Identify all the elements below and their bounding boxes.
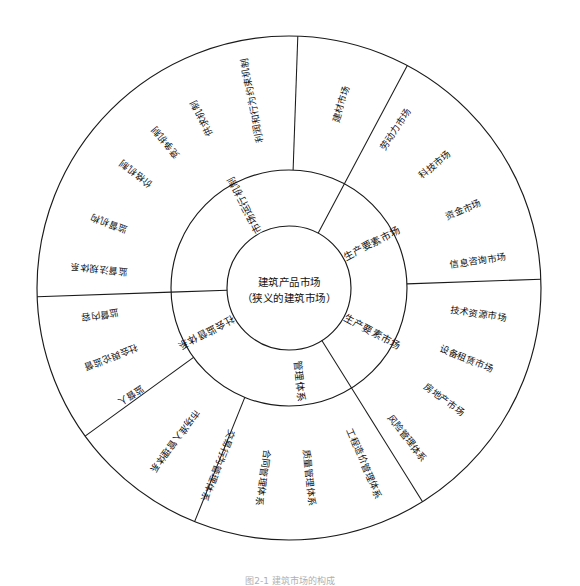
middle-circle bbox=[171, 170, 407, 406]
outer-circle bbox=[37, 36, 541, 540]
outer-ring-label-18: 信息咨询市场 bbox=[449, 251, 507, 270]
outer-ring-label-11: 合同管理体系 bbox=[254, 448, 273, 506]
sector-divider bbox=[171, 290, 227, 292]
outer-ring-label-6: 监督内容 bbox=[80, 307, 119, 323]
middle-ring-label-3: 管理体系 bbox=[292, 360, 308, 403]
middle-ring-label-2: 生产要素市场 bbox=[342, 311, 403, 351]
outer-ring-label-4: 监督机构 bbox=[89, 212, 128, 235]
outer-ring-label-10: 交易行为管理体系 bbox=[199, 428, 238, 503]
sector-divider bbox=[322, 341, 352, 388]
outer-ring-label-12: 质量管理体系 bbox=[302, 449, 319, 507]
middle-ring-label-0: 市场运行机制 bbox=[224, 175, 264, 236]
outer-sector-divider bbox=[293, 36, 298, 170]
sector-divider bbox=[318, 184, 344, 233]
outer-ring-label-19: 资金市场 bbox=[443, 197, 482, 223]
middle-ring-labels: 市场运行机制生产要素市场生产要素市场管理体系社会监督体系 bbox=[176, 175, 403, 403]
outer-ring-label-8: 监督人 bbox=[116, 383, 146, 408]
figure-container: 建筑产品市场 （狭义的建筑市场） 市场运行机制生产要素市场生产要素市场管理体系社… bbox=[0, 0, 580, 586]
outer-ring-label-15: 房地产市场 bbox=[422, 381, 467, 418]
outer-ring-label-22: 建材市场 bbox=[330, 84, 351, 124]
outer-ring-label-20: 科技市场 bbox=[417, 148, 453, 181]
center-label: 建筑产品市场 （狭义的建筑市场） bbox=[242, 276, 337, 304]
center-line-1: 建筑产品市场 bbox=[258, 276, 321, 288]
inner-circle bbox=[227, 226, 351, 350]
center-line-2: （狭义的建筑市场） bbox=[242, 292, 337, 304]
outer-ring-label-16: 设备租赁市场 bbox=[438, 343, 495, 375]
middle-ring-label-4: 社会监督体系 bbox=[176, 313, 237, 353]
outer-ring-label-0: 利润和行为约束机制 bbox=[238, 58, 265, 144]
outer-ring-label-7: 社会舆论监督 bbox=[82, 342, 139, 373]
outer-ring-label-3: 价格机制 bbox=[117, 158, 154, 190]
outer-sector-divider bbox=[407, 279, 541, 284]
outer-ring-label-5: 监督法规体系 bbox=[70, 261, 128, 278]
outer-ring-label-17: 技术资源市场 bbox=[449, 304, 507, 323]
outer-ring-label-9: 市场准入管理体系 bbox=[148, 407, 203, 474]
outer-sector-divider bbox=[37, 292, 171, 297]
outer-ring-label-14: 风险管理体系 bbox=[385, 412, 429, 464]
middle-ring-label-1: 生产要素市场 bbox=[341, 223, 402, 263]
outer-ring-label-13: 工程造价管理体系 bbox=[345, 426, 385, 500]
ring-outlines bbox=[37, 36, 541, 540]
wheel-diagram: 建筑产品市场 （狭义的建筑市场） 市场运行机制生产要素市场生产要素市场管理体系社… bbox=[0, 0, 580, 586]
outer-ring-label-2: 竞争机制 bbox=[149, 124, 182, 160]
figure-caption: 图2-1 建筑市场的构成 bbox=[0, 574, 580, 586]
outer-ring-label-1: 供求机制 bbox=[188, 99, 215, 138]
